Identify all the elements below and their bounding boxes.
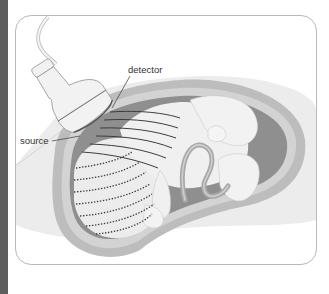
source-label: source [20, 135, 49, 146]
ultrasound-illustration [0, 0, 329, 294]
detector-label: detector [128, 64, 162, 75]
